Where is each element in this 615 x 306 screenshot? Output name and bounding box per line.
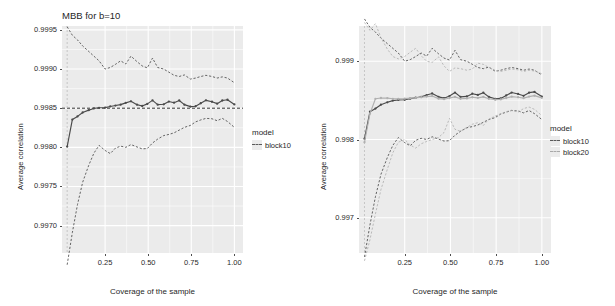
figure-root: MBB for b=10 Average correlation Coverag… (0, 0, 615, 306)
y-axis-tick-label: 0.9975 (34, 181, 57, 190)
y-axis-tick-label: 0.997 (335, 213, 354, 222)
y-axis-tick-mark (60, 69, 62, 70)
y-axis-tick-label: 0.9980 (34, 142, 57, 151)
x-axis-tick-mark (542, 254, 543, 256)
legend-label: block20 (563, 148, 589, 157)
y-axis-tick-label: 0.998 (335, 135, 354, 144)
x-axis-tick-mark (191, 254, 192, 256)
legend-item-block10[interactable]: block10 (252, 140, 291, 150)
y-axis-tick-label: 0.999 (335, 56, 354, 65)
legend-title: model (252, 128, 291, 137)
legend-item-block20[interactable]: block20 (550, 147, 589, 157)
legend-key-icon-block10 (550, 136, 560, 146)
y-axis-tick-mark (60, 226, 62, 227)
x-axis-tick-mark (105, 254, 106, 256)
legend-item-block10[interactable]: block10 (550, 136, 589, 146)
y-axis-tick-mark (60, 186, 62, 187)
chart-panel-left: MBB for b=10 Average correlation Coverag… (0, 0, 308, 306)
y-axis-tick-label: 0.9995 (34, 25, 57, 34)
x-axis-tick-mark (496, 254, 497, 256)
x-axis-tick-label: 0.25 (390, 258, 420, 267)
legend-entries: block10block20 (550, 136, 589, 157)
legend-label: block10 (265, 141, 291, 150)
y-axis-tick-mark (60, 147, 62, 148)
x-axis-tick-label: 0.75 (481, 258, 511, 267)
legend-key-icon-block10 (252, 140, 262, 150)
y-axis-tick-mark (60, 108, 62, 109)
x-axis-tick-mark (450, 254, 451, 256)
x-axis-tick-mark (234, 254, 235, 256)
y-axis-tick-mark (357, 61, 359, 62)
x-axis-tick-label: 1.00 (527, 258, 557, 267)
x-axis-tick-mark (405, 254, 406, 256)
y-axis-tick-label: 0.9990 (34, 64, 57, 73)
y-axis-tick-label: 0.9970 (34, 221, 57, 230)
legend-right: model block10block20 (550, 124, 589, 158)
x-axis-tick-label: 0.50 (435, 258, 465, 267)
x-axis-tick-label: 1.00 (219, 258, 249, 267)
x-axis-tick-mark (148, 254, 149, 256)
legend-title: model (550, 124, 589, 133)
y-axis-tick-label: 0.9985 (34, 103, 57, 112)
y-axis-tick-mark (357, 218, 359, 219)
x-axis-tick-label: 0.50 (133, 258, 163, 267)
x-axis-tick-label: 0.75 (176, 258, 206, 267)
chart-panel-right: Average correlation Coverage of the samp… (307, 0, 615, 306)
legend-left: model block10 (252, 128, 291, 151)
y-axis-tick-mark (60, 30, 62, 31)
legend-label: block10 (563, 137, 589, 146)
y-axis-tick-mark (357, 140, 359, 141)
legend-key-icon-block20 (550, 147, 560, 157)
legend-entries: block10 (252, 140, 291, 150)
x-axis-tick-label: 0.25 (90, 258, 120, 267)
